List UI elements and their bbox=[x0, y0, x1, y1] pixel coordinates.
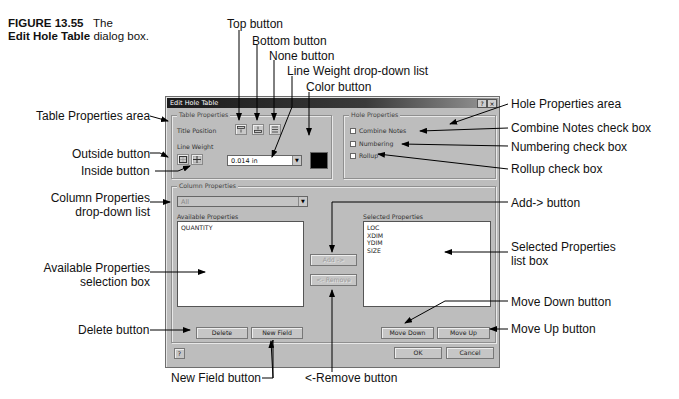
callout-hole-properties-area: Hole Properties area bbox=[511, 98, 621, 111]
list-item[interactable]: YDIM bbox=[367, 239, 487, 247]
callout-rollup: Rollup check box bbox=[511, 163, 602, 176]
move-up-button[interactable]: Move Up bbox=[437, 327, 490, 339]
rollup-label: Rollup bbox=[359, 152, 378, 159]
figure-number: FIGURE 13.55 bbox=[8, 17, 83, 29]
callout-available-properties-2: selection box bbox=[20, 276, 150, 289]
title-bottom-icon bbox=[254, 126, 262, 133]
none-button[interactable] bbox=[269, 124, 281, 135]
top-button[interactable] bbox=[235, 124, 247, 135]
column-properties-dropdown[interactable]: All ▼ bbox=[177, 196, 308, 207]
callout-color-button: Color button bbox=[306, 81, 371, 94]
column-properties-group: Column Properties All ▼ Available Proper… bbox=[171, 186, 496, 343]
callout-available-properties-1: Available Properties bbox=[20, 262, 150, 275]
title-position-label: Title Position bbox=[177, 127, 216, 134]
callout-numbering: Numbering check box bbox=[511, 141, 627, 154]
callout-remove-button: <-Remove button bbox=[305, 372, 397, 385]
hole-properties-group: Hole Properties Combine Notes Numbering … bbox=[343, 115, 496, 179]
figure-title-suffix: dialog box. bbox=[93, 30, 149, 42]
callout-top-button: Top button bbox=[227, 18, 283, 31]
figure-caption: FIGURE 13.55 The Edit Hole Table dialog … bbox=[8, 17, 158, 43]
callout-inside-button: Inside button bbox=[81, 165, 150, 178]
table-properties-group: Table Properties Title Position Line Wei… bbox=[171, 115, 332, 179]
figure-title-prefix: The bbox=[93, 17, 113, 29]
available-properties-listbox[interactable]: QUANTITY bbox=[177, 221, 304, 307]
callout-column-properties-1: Column Properties bbox=[40, 192, 150, 205]
selected-properties-listbox[interactable]: LOC XDIM YDIM SIZE bbox=[363, 221, 491, 307]
inside-border-icon bbox=[193, 156, 201, 163]
callout-selected-properties-2: list box bbox=[511, 255, 548, 268]
column-properties-label: Column Properties bbox=[177, 182, 238, 189]
title-none-icon bbox=[271, 126, 279, 133]
callout-move-up-button: Move Up button bbox=[511, 323, 596, 336]
available-properties-label: Available Properties bbox=[177, 213, 238, 220]
combine-notes-label: Combine Notes bbox=[359, 127, 406, 134]
column-properties-value: All bbox=[181, 198, 189, 206]
outside-border-icon bbox=[179, 156, 187, 163]
title-top-icon bbox=[237, 126, 245, 133]
line-weight-dropdown[interactable]: 0.014 in ▼ bbox=[227, 155, 302, 166]
callout-selected-properties-1: Selected Properties bbox=[511, 241, 616, 254]
help-icon: ? bbox=[480, 100, 483, 107]
hole-properties-label: Hole Properties bbox=[349, 111, 400, 118]
line-weight-value: 0.014 in bbox=[231, 157, 258, 165]
callout-none-button: None button bbox=[269, 50, 334, 63]
titlebar-close-button[interactable]: × bbox=[487, 99, 497, 108]
callout-line-weight-dropdown: Line Weight drop-down list bbox=[287, 65, 428, 78]
figure-title-bold: Edit Hole Table bbox=[8, 30, 90, 42]
outside-button[interactable] bbox=[177, 154, 189, 165]
list-item[interactable]: SIZE bbox=[367, 247, 487, 255]
titlebar-help-button[interactable]: ? bbox=[477, 99, 487, 108]
edit-hole-table-dialog: Edit Hole Table ? × Table Properties Tit… bbox=[165, 96, 500, 368]
close-icon: × bbox=[489, 100, 494, 107]
callout-delete-button: Delete button bbox=[78, 324, 149, 337]
combine-notes-checkbox[interactable] bbox=[350, 128, 356, 134]
callout-add-button: Add-> button bbox=[511, 197, 580, 210]
numbering-checkbox[interactable] bbox=[350, 141, 356, 147]
callout-move-down-button: Move Down button bbox=[511, 296, 611, 309]
callout-new-field-button: New Field button bbox=[171, 372, 261, 385]
list-item[interactable]: XDIM bbox=[367, 232, 487, 240]
numbering-label: Numbering bbox=[359, 140, 393, 147]
callout-table-properties-area: Table Properties area bbox=[36, 110, 150, 123]
color-button[interactable] bbox=[310, 152, 328, 169]
new-field-button[interactable]: New Field bbox=[251, 327, 303, 339]
dialog-titlebar[interactable]: Edit Hole Table ? × bbox=[167, 98, 498, 108]
delete-button[interactable]: Delete bbox=[196, 327, 248, 339]
list-item[interactable]: LOC bbox=[367, 224, 487, 232]
help-icon: ? bbox=[178, 350, 181, 357]
rollup-checkbox[interactable] bbox=[350, 153, 356, 159]
add-button[interactable]: Add -> bbox=[310, 254, 357, 266]
inside-button[interactable] bbox=[191, 154, 203, 165]
bottom-button[interactable] bbox=[252, 124, 264, 135]
remove-button[interactable]: <- Remove bbox=[310, 274, 357, 286]
callout-combine-notes: Combine Notes check box bbox=[511, 122, 651, 135]
chevron-down-icon[interactable]: ▼ bbox=[298, 197, 307, 206]
line-weight-label: Line Weight bbox=[177, 143, 213, 150]
list-item[interactable]: QUANTITY bbox=[181, 224, 300, 232]
dialog-title: Edit Hole Table bbox=[170, 99, 218, 107]
help-button[interactable]: ? bbox=[174, 348, 185, 359]
chevron-down-icon[interactable]: ▼ bbox=[292, 156, 301, 165]
callout-outside-button: Outside button bbox=[72, 148, 150, 161]
cancel-button[interactable]: Cancel bbox=[446, 347, 494, 359]
callout-column-properties-2: drop-down list bbox=[40, 206, 150, 219]
selected-properties-label: Selected Properties bbox=[363, 213, 423, 220]
table-properties-label: Table Properties bbox=[177, 111, 230, 118]
callout-bottom-button: Bottom button bbox=[252, 35, 327, 48]
ok-button[interactable]: OK bbox=[394, 347, 442, 359]
move-down-button[interactable]: Move Down bbox=[381, 327, 434, 339]
